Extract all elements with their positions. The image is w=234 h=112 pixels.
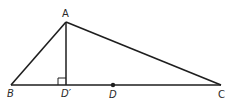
label-b: B [7,88,14,99]
segment-ab [11,22,66,85]
triangle-diagram: A B D′ D C [0,0,234,112]
point-d-dot [111,83,115,87]
label-c: C [218,89,225,100]
right-angle-marker [58,78,66,85]
label-d-prime: D′ [61,88,72,99]
label-a: A [62,8,69,19]
label-d: D [109,89,117,100]
segment-ac [66,22,221,85]
diagram-canvas: A B D′ D C [0,0,234,112]
